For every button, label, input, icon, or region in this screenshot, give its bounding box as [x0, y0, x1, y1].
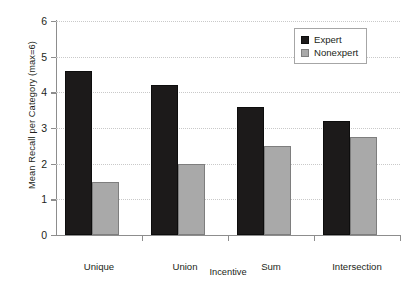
y-tick-label: 5 — [41, 51, 47, 63]
bar-unique-nonexpert — [92, 182, 119, 236]
y-tick-label: 3 — [41, 122, 47, 134]
legend-item-nonexpert: Nonexpert — [301, 46, 358, 59]
bar-union-nonexpert — [178, 164, 205, 235]
legend-swatch-expert-icon — [301, 36, 309, 44]
x-tick-mark — [314, 235, 315, 241]
gridline — [56, 92, 400, 93]
y-tick-label: 1 — [41, 193, 47, 205]
y-tick-label: 6 — [41, 15, 47, 27]
legend-label-expert: Expert — [314, 34, 342, 45]
x-tick-mark — [142, 235, 143, 241]
chart-legend: Expert Nonexpert — [294, 28, 367, 64]
y-tick-mark — [51, 92, 56, 93]
y-tick-label: 0 — [41, 229, 47, 241]
y-tick-mark — [51, 128, 56, 129]
y-tick-mark — [51, 199, 56, 200]
bar-intersection-nonexpert — [350, 137, 377, 235]
bar-intersection-expert — [323, 121, 350, 235]
y-tick-label: 2 — [41, 158, 47, 170]
gridline — [56, 21, 400, 22]
y-axis-title: Mean Recall per Category (max=6) — [27, 5, 37, 225]
y-tick-mark — [51, 21, 56, 22]
legend-item-expert: Expert — [301, 33, 358, 46]
y-tick-label: 4 — [41, 86, 47, 98]
legend-swatch-nonexpert-icon — [301, 49, 309, 57]
bar-sum-expert — [237, 107, 264, 235]
bar-sum-nonexpert — [264, 146, 291, 235]
x-tick-mark — [228, 235, 229, 241]
bar-chart-figure: Mean Recall per Category (max=6) 0123456… — [0, 0, 409, 289]
bar-union-expert — [151, 85, 178, 235]
legend-label-nonexpert: Nonexpert — [314, 47, 358, 58]
y-tick-mark — [51, 57, 56, 58]
y-tick-mark — [51, 235, 56, 236]
x-axis-title: Incentive — [56, 267, 400, 277]
bar-unique-expert — [65, 71, 92, 235]
y-tick-mark — [51, 164, 56, 165]
x-tick-mark — [400, 235, 401, 241]
